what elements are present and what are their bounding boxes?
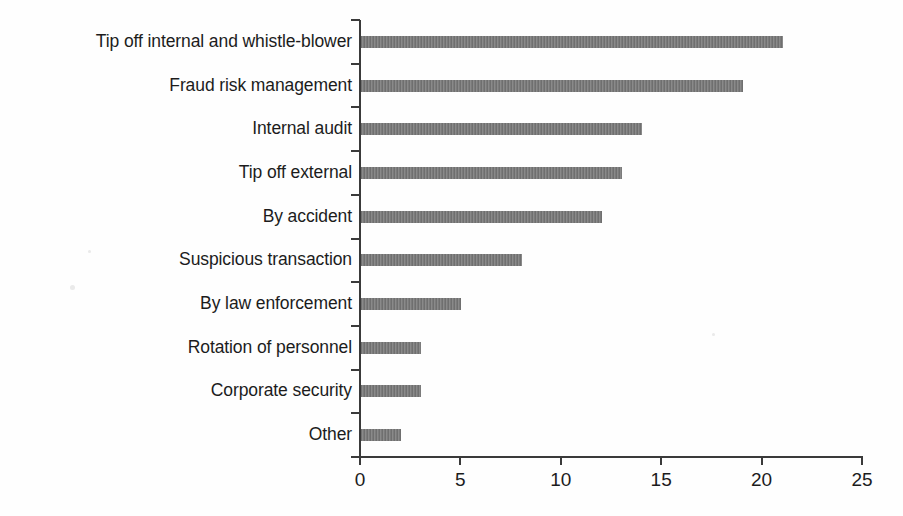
category-row: Suspicious transaction [0,239,903,283]
bar [361,123,642,135]
y-axis-tick [351,281,360,283]
x-axis-tick [560,456,562,465]
x-axis-tick-label: 20 [732,470,792,489]
y-axis-tick [351,194,360,196]
y-axis-tick [351,369,360,371]
x-axis-tick [761,456,763,465]
category-row: Fraud risk management [0,64,903,108]
bar [361,385,421,397]
bar-chart-figure: Tip off internal and whistle-blowerFraud… [0,0,903,516]
category-row: Corporate security [0,370,903,414]
category-row: Tip off external [0,151,903,195]
category-label: Corporate security [211,383,352,401]
bar [361,298,461,310]
category-row: By accident [0,195,903,239]
bar [361,211,602,223]
y-axis-tick [351,325,360,327]
x-axis-tick [459,456,461,465]
x-axis-tick-label: 15 [631,470,691,489]
category-label: Fraud risk management [169,77,352,95]
category-label: By accident [263,208,352,226]
bar [361,167,622,179]
bar [361,36,783,48]
category-label: Internal audit [252,120,352,138]
bar [361,80,743,92]
x-axis-tick [359,456,361,465]
category-label: Suspicious transaction [179,252,352,270]
category-label: Rotation of personnel [188,339,352,357]
category-label: By law enforcement [200,295,352,313]
category-row: Rotation of personnel [0,326,903,370]
bar [361,342,421,354]
x-axis-tick-label: 5 [430,470,490,489]
y-axis-tick [351,150,360,152]
y-axis-tick [351,106,360,108]
x-axis-tick [660,456,662,465]
bar [361,429,401,441]
x-axis-tick-label: 0 [330,470,390,489]
category-label: Tip off internal and whistle-blower [96,33,352,51]
category-row: Tip off internal and whistle-blower [0,20,903,64]
y-axis-tick [351,412,360,414]
category-label: Other [309,426,352,444]
y-axis-tick [351,238,360,240]
category-row: Other [0,413,903,457]
category-row: Internal audit [0,107,903,151]
x-axis-tick [861,456,863,465]
y-axis-tick [351,19,360,21]
bar [361,254,522,266]
category-row: By law enforcement [0,282,903,326]
x-axis-tick-label: 25 [832,470,892,489]
category-label: Tip off external [239,164,352,182]
x-axis-tick-label: 10 [531,470,591,489]
y-axis-tick [351,63,360,65]
